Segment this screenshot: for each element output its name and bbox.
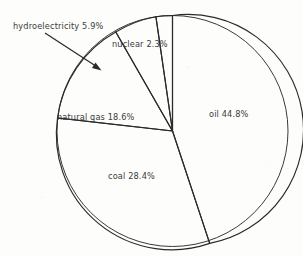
slice-label-coal: coal 28.4% <box>108 172 155 180</box>
hydroelectricity-leader-line <box>45 33 97 67</box>
pie-slice-coal[interactable] <box>56 118 209 250</box>
pie-slice-oil[interactable] <box>173 14 304 243</box>
slice-label-nuclear: nuclear 2.3% <box>112 40 168 48</box>
pie-chart-figure: oil 44.8% coal 28.4% natural gas 18.6% h… <box>0 0 303 257</box>
slice-label-hydroelectricity: hydroelectricity 5.9% <box>13 22 104 30</box>
slice-label-natural-gas: natural gas 18.6% <box>57 113 135 121</box>
pie-slice-nuclear[interactable] <box>156 16 173 132</box>
slice-label-oil: oil 44.8% <box>209 110 249 118</box>
hydroelectricity-arrow-icon <box>92 63 102 71</box>
